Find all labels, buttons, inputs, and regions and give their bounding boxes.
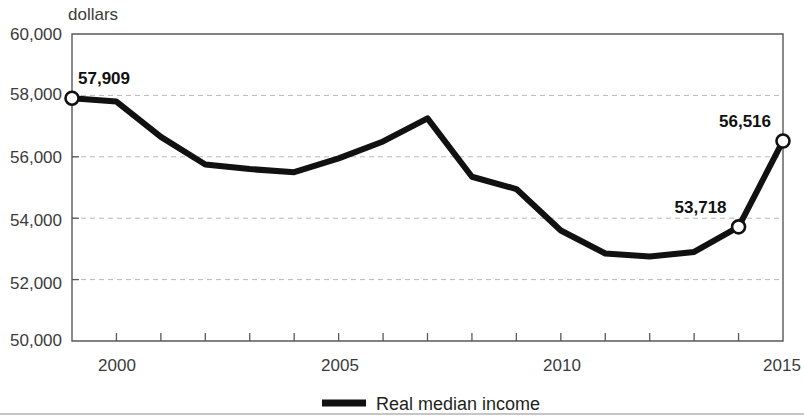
legend-label-real-median-income: Real median income bbox=[376, 394, 540, 414]
series-line-real-median-income bbox=[72, 98, 783, 256]
y-tick-label-52000: 52,000 bbox=[10, 274, 62, 293]
y-tick-label-56000: 56,000 bbox=[10, 148, 62, 167]
x-tick-label-2010: 2010 bbox=[543, 356, 581, 375]
chart-svg: dollars 50,000 52,000 54,000 56,000 58,0… bbox=[0, 0, 804, 420]
real-median-income-chart: dollars 50,000 52,000 54,000 56,000 58,0… bbox=[0, 0, 804, 420]
data-label-56516: 56,516 bbox=[719, 112, 771, 131]
x-tick-label-2015: 2015 bbox=[763, 356, 801, 375]
plot-frame bbox=[72, 34, 783, 341]
y-tick-label-60000: 60,000 bbox=[10, 25, 62, 44]
x-tick-label-2000: 2000 bbox=[98, 356, 136, 375]
y-tick-label-58000: 58,000 bbox=[10, 85, 62, 104]
y-tick-label-54000: 54,000 bbox=[10, 211, 62, 230]
data-label-53718: 53,718 bbox=[675, 198, 727, 217]
y-axis-unit-label: dollars bbox=[68, 5, 118, 24]
x-tick-label-2005: 2005 bbox=[321, 356, 359, 375]
y-axis-ticks bbox=[72, 95, 79, 279]
y-tick-label-50000: 50,000 bbox=[10, 331, 62, 350]
x-axis-ticks bbox=[116, 333, 738, 341]
data-label-57909: 57,909 bbox=[78, 69, 130, 88]
